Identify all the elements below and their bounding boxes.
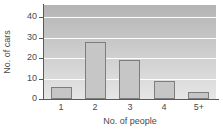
gridline <box>44 58 216 59</box>
x-axis-tick-label: 1 <box>44 101 78 114</box>
x-axis-tick-label: 3 <box>113 101 147 114</box>
x-axis-tick-label: 4 <box>147 101 181 114</box>
y-axis-title-text: No. of cars <box>2 30 12 74</box>
bar-chart: No. of cars 010203040 12345+ No. of peop… <box>0 0 223 136</box>
x-axis-line <box>40 99 219 100</box>
x-axis-tick-label: 5+ <box>182 101 216 114</box>
y-axis-tick-labels: 010203040 <box>14 0 37 136</box>
gridline <box>44 38 216 39</box>
y-axis-tick-label: 0 <box>14 94 37 103</box>
y-axis-title: No. of cars <box>0 0 14 104</box>
y-axis-line <box>43 4 44 100</box>
x-axis-tick-labels: 12345+ <box>44 101 216 115</box>
plot-area <box>44 5 216 99</box>
bar <box>85 42 106 99</box>
x-axis-title: No. of people <box>44 116 216 126</box>
bar <box>154 81 175 99</box>
y-axis-tick-label: 30 <box>14 33 37 42</box>
bar <box>188 92 209 99</box>
y-axis-tick-label: 40 <box>14 12 37 21</box>
y-axis-tick-label: 10 <box>14 74 37 83</box>
gridline <box>44 17 216 18</box>
y-axis-tick-label: 20 <box>14 53 37 62</box>
x-axis-tick-label: 2 <box>78 101 112 114</box>
bar <box>119 60 140 99</box>
bar <box>51 87 72 99</box>
